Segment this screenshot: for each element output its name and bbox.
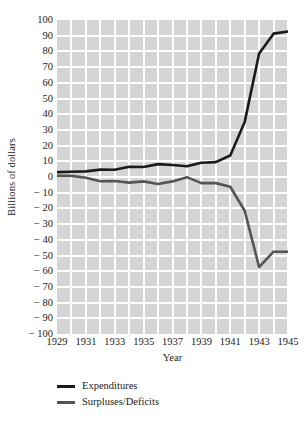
y-tick-label: − 30 bbox=[12, 219, 53, 229]
legend-item-label: Surpluses/Deficits bbox=[82, 396, 159, 408]
legend-item-label: Expenditures bbox=[82, 380, 137, 392]
y-tick-label: 90 bbox=[12, 31, 53, 41]
y-tick-label: 30 bbox=[12, 125, 53, 135]
x-tick-label: 1945 bbox=[268, 336, 304, 348]
series-lines bbox=[57, 20, 288, 334]
series-line-surpluses-deficits bbox=[57, 176, 288, 267]
y-tick-label: 100 bbox=[12, 15, 53, 25]
y-tick-label: 60 bbox=[12, 78, 53, 88]
legend-line-swatch-icon bbox=[57, 401, 75, 404]
legend-item: Surpluses/Deficits bbox=[57, 394, 287, 410]
series-line-expenditures bbox=[57, 31, 288, 172]
legend-item: Expenditures bbox=[57, 378, 287, 394]
y-tick-label: − 80 bbox=[12, 298, 53, 308]
y-tick-label: − 20 bbox=[12, 203, 53, 213]
y-tick-label: − 70 bbox=[12, 282, 53, 292]
x-axis-title: Year bbox=[57, 352, 288, 364]
y-tick-label: 40 bbox=[12, 109, 53, 119]
x-axis-tick-labels: 192919311933193519371939194119431945 bbox=[57, 336, 288, 350]
y-tick-label: 80 bbox=[12, 46, 53, 56]
y-tick-label: − 10 bbox=[12, 188, 53, 198]
y-tick-label: 20 bbox=[12, 141, 53, 151]
y-axis-tick-labels: 1009080706050403020100− 10− 20− 30− 40− … bbox=[12, 0, 53, 421]
chart-figure: Billions of dollars 10090807060504030201… bbox=[0, 0, 304, 421]
y-tick-label: − 90 bbox=[12, 313, 53, 323]
y-tick-label: − 50 bbox=[12, 251, 53, 261]
plot-area bbox=[57, 20, 288, 334]
y-tick-label: 50 bbox=[12, 94, 53, 104]
y-tick-label: 70 bbox=[12, 62, 53, 72]
y-tick-label: − 40 bbox=[12, 235, 53, 245]
y-tick-label: 10 bbox=[12, 156, 53, 166]
legend-line-swatch-icon bbox=[57, 385, 75, 388]
y-tick-label: − 60 bbox=[12, 266, 53, 276]
y-tick-label: 0 bbox=[12, 172, 53, 182]
chart-legend: ExpendituresSurpluses/Deficits bbox=[57, 378, 287, 410]
